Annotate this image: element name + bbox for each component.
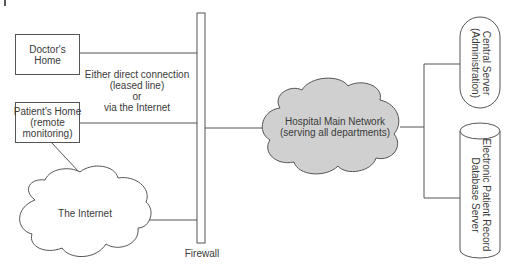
firewall-bar — [197, 13, 205, 243]
annotation-line2: (leased line) — [82, 80, 192, 91]
epr-server-line1: Electronic Patient Record — [481, 135, 492, 255]
doctors-home-line2: Home — [29, 55, 65, 66]
hospital-line2: (serving all departments) — [270, 127, 400, 138]
central-server-label: Central Server (Administration) — [468, 18, 492, 108]
firewall-label: Firewall — [180, 248, 224, 259]
annotation-line3: or — [82, 91, 192, 102]
annotation-line4: via the Internet — [82, 102, 192, 113]
doctors-home-label: Doctor's Home — [29, 44, 65, 66]
hospital-network-label: Hospital Main Network (serving all depar… — [270, 116, 400, 138]
epr-server-label: Electronic Patient Record Database Serve… — [468, 135, 492, 255]
patients-home-line1: Patient's Home — [14, 106, 82, 117]
edge-patient-internet — [51, 142, 79, 172]
internet-label: The Internet — [45, 208, 125, 219]
annotation-line1: Either direct connection — [82, 69, 192, 80]
hospital-line1: Hospital Main Network — [270, 116, 400, 127]
connection-annotation: Either direct connection (leased line) o… — [82, 69, 192, 113]
patients-home-line3: monitoring) — [14, 128, 82, 139]
patients-home-label: Patient's Home (remote monitoring) — [14, 106, 82, 139]
doctors-home-line1: Doctor's — [29, 44, 65, 55]
patients-home-node: Patient's Home (remote monitoring) — [15, 102, 80, 143]
central-server-line1: Central Server — [481, 18, 492, 108]
patients-home-line2: (remote — [14, 117, 82, 128]
doctors-home-node: Doctor's Home — [15, 34, 80, 75]
epr-server-line2: Database Server — [470, 135, 481, 255]
central-server-line2: (Administration) — [470, 18, 481, 108]
